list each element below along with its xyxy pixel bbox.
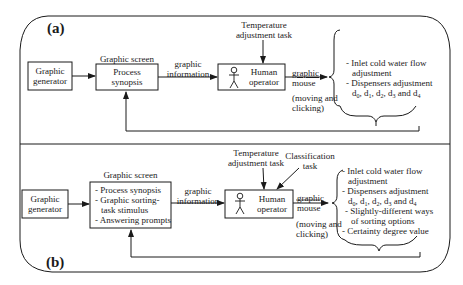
panel-a-label: (a) <box>47 20 65 37</box>
a-info-label: graphicinformation <box>160 59 216 79</box>
diagram-lines <box>0 0 463 285</box>
b-task2-label: Classificationtask <box>282 151 338 171</box>
a-output-note: (moving andclicking) <box>292 93 338 113</box>
a-generator-label: Graphicgenerator <box>28 66 72 86</box>
b-screen-title: Graphic screen <box>90 170 171 180</box>
b-actions-list: - Inlet cold water flow adjustment - Dis… <box>342 166 433 236</box>
b-screen-content: - Process synopsis - Graphic sorting- ta… <box>95 185 171 225</box>
person-icon-b <box>235 193 245 214</box>
a-actions-list: - Inlet cold water flow adjustment - Dis… <box>346 58 432 98</box>
a-dispensers: d0, d1, d2, d3 and d4 <box>346 88 432 98</box>
b-task-label: Temperatureadjustment task <box>225 148 287 168</box>
a-output-label: graphicmouse <box>292 68 319 88</box>
panel-b-label: (b) <box>46 254 64 271</box>
b-output-label: graphicmouse <box>297 193 324 213</box>
b-output-note: (moving andclicking) <box>296 219 342 239</box>
b-operator-label: Humanoperator <box>252 194 292 214</box>
a-task-label: Temperatureadjustment task <box>228 20 300 40</box>
a-screen-content: Processsynopsis <box>96 67 158 87</box>
b-generator-label: Graphicgenerator <box>22 194 68 214</box>
b-dispensers: d0, d1, d2, d3 and d4 <box>342 196 433 206</box>
a-operator-label: Humanoperator <box>244 67 284 87</box>
person-icon-a <box>229 67 239 88</box>
a-screen-title: Graphic screen <box>96 54 158 64</box>
b-info-label: graphicinformation <box>172 186 224 206</box>
